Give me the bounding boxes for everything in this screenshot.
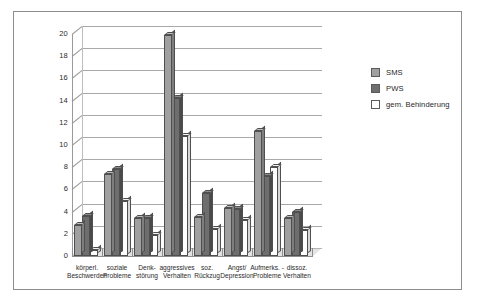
bar-side-face — [172, 30, 175, 253]
bar-side-face — [292, 213, 295, 253]
y-axis-tick-label: 12 — [46, 118, 68, 127]
bar-side-face — [210, 187, 213, 253]
bar-side-face — [128, 195, 131, 253]
chart-page: 20181614121086420 körperl.Beschwerdensoz… — [0, 0, 479, 304]
bar-group — [164, 34, 188, 256]
x-axis-tick-mark — [252, 248, 253, 257]
bar-front-face — [104, 174, 112, 256]
y-axis-tick-label: 20 — [46, 29, 68, 38]
bar — [224, 208, 232, 256]
y-axis-tick-label: 2 — [46, 229, 68, 238]
y-axis-labels: 20181614121086420 — [42, 12, 68, 289]
bar-side-face — [270, 171, 273, 253]
bar-group — [74, 34, 98, 256]
bar-side-face — [232, 203, 235, 253]
x-axis-category-label: dissoz.Verhalten — [268, 264, 326, 281]
gridline — [82, 26, 322, 27]
bar — [104, 174, 112, 256]
plot-area — [72, 34, 317, 256]
bar-side-face — [188, 131, 191, 253]
bar — [74, 225, 82, 256]
bar-side-face — [240, 204, 243, 253]
chart-legend: SMSPWSgem. Behinderung — [371, 65, 457, 113]
legend-label: PWS — [386, 84, 404, 93]
y-axis-tick-label: 14 — [46, 96, 68, 105]
bar-front-face — [194, 217, 202, 256]
bar — [134, 218, 142, 256]
bar-group — [254, 34, 278, 256]
bar-side-face — [112, 169, 115, 253]
bar-side-face — [120, 164, 123, 253]
y-axis-tick-label: 10 — [46, 140, 68, 149]
bar-side-face — [202, 212, 205, 253]
bar-side-face — [300, 206, 303, 253]
bar-group — [104, 34, 128, 256]
bar-side-face — [262, 125, 265, 253]
x-axis-tick-mark — [222, 248, 223, 257]
bar — [164, 35, 172, 256]
legend-item[interactable]: gem. Behinderung — [371, 97, 457, 111]
bar-front-face — [224, 208, 232, 256]
bar-side-face — [150, 213, 153, 253]
x-axis-tick-mark — [312, 248, 313, 257]
category-label-line: dissoz. — [268, 264, 326, 272]
bar-side-face — [90, 211, 93, 253]
grouped-bar-chart: 20181614121086420 körperl.Beschwerdensoz… — [14, 12, 461, 289]
x-axis-tick-mark — [72, 248, 73, 257]
bar-side-face — [142, 213, 145, 253]
bar — [194, 217, 202, 256]
y-axis-tick-label: 6 — [46, 184, 68, 193]
legend-swatch — [371, 68, 380, 77]
x-axis-tick-mark — [102, 248, 103, 257]
y-axis-tick-label: 16 — [46, 73, 68, 82]
chart-frame: 20181614121086420 körperl.Beschwerdensoz… — [13, 11, 462, 290]
bar — [254, 131, 262, 256]
bar-front-face — [134, 218, 142, 256]
bar-front-face — [284, 218, 292, 256]
bar-side-face — [278, 162, 281, 253]
bar-front-face — [254, 131, 262, 256]
bar-group — [284, 34, 308, 256]
legend-swatch — [371, 84, 380, 93]
legend-item[interactable]: PWS — [371, 81, 457, 95]
bar — [284, 218, 292, 256]
y-axis-tick-label: 0 — [46, 251, 68, 260]
bar-group — [134, 34, 158, 256]
bar-side-face — [180, 93, 183, 253]
y-axis-tick-label: 8 — [46, 162, 68, 171]
bar-front-face — [164, 35, 172, 256]
legend-item[interactable]: SMS — [371, 65, 457, 79]
x-axis-tick-mark — [192, 248, 193, 257]
legend-swatch — [371, 100, 380, 109]
legend-label: SMS — [386, 68, 403, 77]
x-axis-tick-mark — [282, 248, 283, 257]
x-axis-tick-mark — [132, 248, 133, 257]
legend-label: gem. Behinderung — [386, 100, 450, 109]
y-axis-tick-label: 4 — [46, 207, 68, 216]
bar-front-face — [74, 225, 82, 256]
bar-group — [194, 34, 218, 256]
bar-group — [224, 34, 248, 256]
y-axis-tick-label: 18 — [46, 51, 68, 60]
bar-side-face — [248, 215, 251, 253]
x-axis-tick-mark — [162, 248, 163, 257]
category-label-line: Verhalten — [268, 272, 326, 280]
